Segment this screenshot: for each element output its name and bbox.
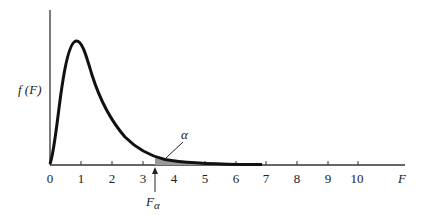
x-axis-label: F (397, 171, 407, 186)
density-curve (50, 41, 262, 165)
svg-text:4: 4 (171, 171, 178, 186)
svg-text:0: 0 (47, 171, 54, 186)
x-tick-labels: 0 1 2 3 4 5 6 7 8 9 10 (47, 171, 364, 186)
svg-text:7: 7 (263, 171, 270, 186)
svg-text:2: 2 (109, 171, 116, 186)
f-distribution-chart: 0 1 2 3 4 5 6 7 8 9 10 F f (F) α Fα (0, 0, 428, 215)
svg-text:8: 8 (294, 171, 301, 186)
svg-text:1: 1 (78, 171, 85, 186)
arrowhead-icon (152, 167, 158, 174)
svg-text:6: 6 (233, 171, 240, 186)
svg-text:5: 5 (202, 171, 209, 186)
y-axis-label: f (F) (18, 82, 41, 97)
svg-text:3: 3 (140, 171, 147, 186)
f-alpha-label: Fα (145, 194, 160, 211)
alpha-label: α (181, 127, 189, 142)
alpha-pointer-line (166, 142, 183, 158)
svg-text:10: 10 (351, 171, 364, 186)
svg-text:9: 9 (325, 171, 332, 186)
